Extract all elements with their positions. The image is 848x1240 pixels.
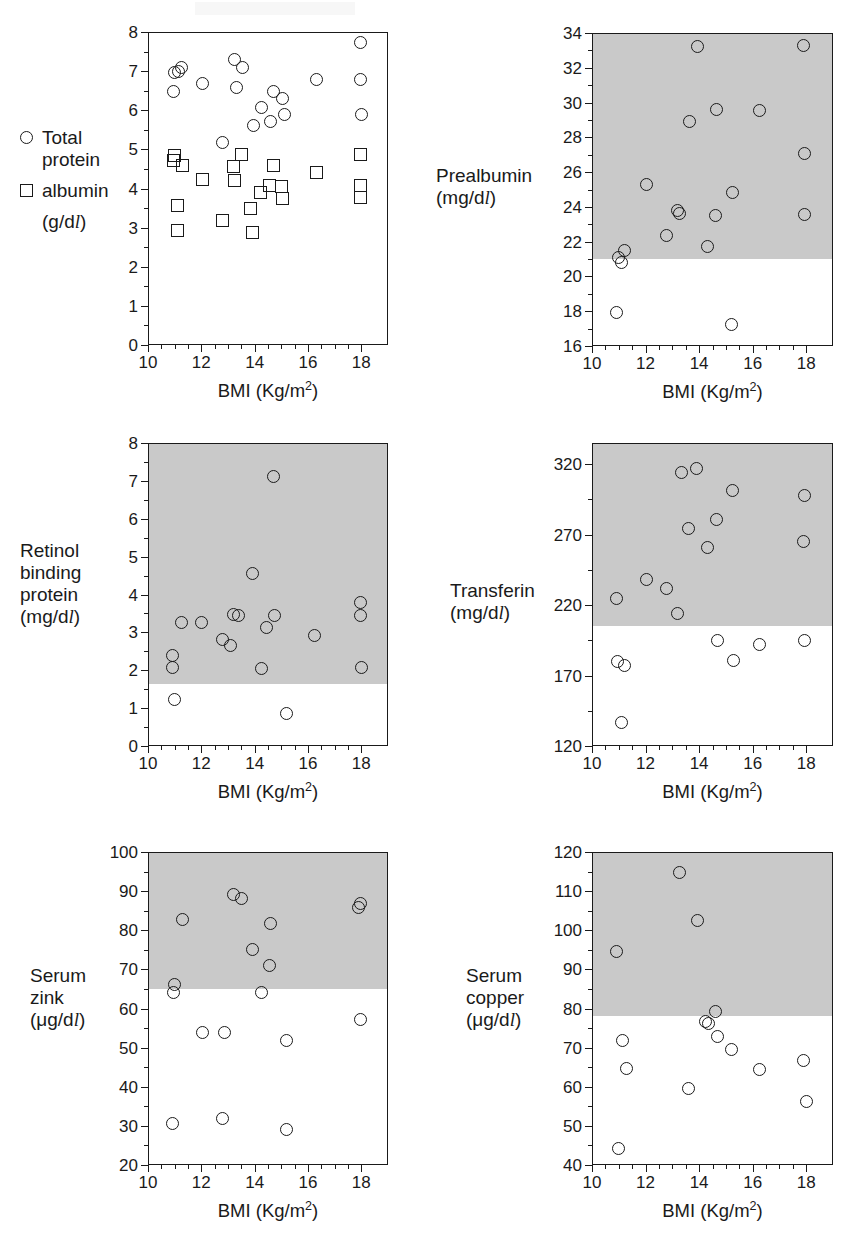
y-tick (585, 891, 592, 892)
data-point (682, 1082, 695, 1095)
y-tick (588, 989, 592, 990)
x-tick (779, 1165, 780, 1169)
x-tick (659, 1165, 660, 1169)
data-point (610, 945, 623, 958)
data-point (797, 1054, 810, 1067)
data-point (753, 1063, 766, 1076)
y-tick (585, 930, 592, 931)
legend-item-square: albumin (20, 180, 109, 202)
x-tick (605, 1165, 606, 1169)
x-tick (713, 1165, 714, 1169)
panel-title-serum-copper: Serumcopper(μg/dl) (466, 965, 524, 1031)
legend-marker-square-icon (20, 184, 33, 197)
data-point (702, 1017, 715, 1030)
data-point (800, 1095, 813, 1108)
y-tick (585, 1126, 592, 1127)
data-point (725, 1043, 738, 1056)
y-tick-label: 40 (563, 1157, 582, 1174)
plot-area-serum-copper: 4050607080901001101201012141618 (592, 852, 833, 1165)
x-tick-label: 10 (583, 1174, 602, 1191)
y-tick (585, 1009, 592, 1010)
normal-range-band (592, 852, 833, 1016)
data-point (612, 1142, 625, 1155)
data-point (616, 1034, 629, 1047)
y-tick (588, 1028, 592, 1029)
panel-title-line: copper (466, 987, 524, 1009)
panel-serum-copper: 4050607080901001101201012141618BMI (Kg/m… (0, 0, 848, 1240)
x-tick (806, 1165, 807, 1172)
y-tick (588, 1067, 592, 1068)
y-tick (585, 1048, 592, 1049)
panel-unit-line: (μg/dl) (466, 1009, 524, 1031)
data-point (711, 1030, 724, 1043)
y-tick (585, 1087, 592, 1088)
y-tick (585, 852, 592, 853)
x-tick (646, 1165, 647, 1172)
y-tick (588, 911, 592, 912)
y-tick-label: 90 (563, 961, 582, 978)
panel-title-line: Serum (466, 965, 524, 987)
y-tick (585, 969, 592, 970)
y-tick (588, 1145, 592, 1146)
legend-item-circle: Total protein (20, 127, 109, 171)
legend-label: albumin (42, 180, 109, 202)
x-axis-title: BMI (Kg/m2) (623, 1199, 803, 1222)
y-tick-label: 120 (554, 844, 582, 861)
x-tick-label: 12 (636, 1174, 655, 1191)
x-tick-label: 16 (743, 1174, 762, 1191)
x-tick (739, 1165, 740, 1169)
data-point (673, 866, 686, 879)
x-tick-label: 14 (690, 1174, 709, 1191)
x-tick (699, 1165, 700, 1172)
y-tick-label: 110 (555, 883, 582, 900)
x-tick (686, 1165, 687, 1169)
y-tick (585, 1165, 592, 1166)
legend-label: Total protein (42, 127, 100, 171)
y-tick (588, 950, 592, 951)
x-tick (726, 1165, 727, 1169)
x-tick (632, 1165, 633, 1169)
scatter-plot-figure: 0123456781012141618BMI (Kg/m2)1618202224… (0, 0, 848, 1240)
y-tick-label: 50 (563, 1117, 582, 1134)
x-tick (793, 1165, 794, 1169)
x-tick (592, 1165, 593, 1172)
x-tick (766, 1165, 767, 1169)
y-tick-label: 60 (563, 1078, 582, 1095)
x-tick (619, 1165, 620, 1169)
x-tick (753, 1165, 754, 1172)
y-tick (588, 872, 592, 873)
data-point (620, 1062, 633, 1075)
data-point (709, 1005, 722, 1018)
y-tick-label: 70 (563, 1039, 582, 1056)
y-tick-label: 80 (563, 1000, 582, 1017)
legend-marker-circle-icon (20, 131, 33, 144)
y-tick (588, 1106, 592, 1107)
x-tick (672, 1165, 673, 1169)
y-tick-label: 100 (554, 922, 582, 939)
x-tick-label: 18 (797, 1174, 816, 1191)
legend-unit: (g/dl) (42, 211, 109, 233)
legend: Total proteinalbumin(g/dl) (20, 127, 109, 232)
